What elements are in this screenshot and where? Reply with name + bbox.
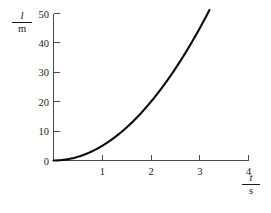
x-axis-label: t s	[242, 172, 260, 197]
y-axis-label-numerator: l	[12, 10, 32, 21]
y-tick-labels: 50 40 30 20 10 0	[39, 9, 50, 167]
x-axis-label-denominator: s	[242, 186, 260, 197]
y-tick-label-20: 20	[39, 97, 50, 108]
y-tick-label-0: 0	[44, 156, 49, 167]
x-axis-ticks	[102, 155, 248, 161]
y-tick-label-30: 30	[39, 67, 50, 78]
data-curve-distance	[54, 10, 210, 161]
x-tick-label-1: 1	[100, 166, 105, 177]
y-axis-ticks	[54, 14, 60, 161]
y-axis-label: l m	[12, 10, 32, 35]
x-tick-label-2: 2	[148, 166, 153, 177]
x-tick-label-3: 3	[197, 166, 202, 177]
distance-time-plot: 50 40 30 20 10 0 1 2 3 4	[0, 0, 271, 213]
chart-figure: 50 40 30 20 10 0 1 2 3 4 l m t s	[0, 0, 271, 213]
x-axis-label-numerator: t	[242, 172, 260, 183]
y-tick-label-10: 10	[39, 126, 50, 137]
y-axis-label-denominator: m	[12, 24, 32, 35]
y-tick-label-40: 40	[39, 38, 50, 49]
y-tick-label-50: 50	[39, 9, 50, 20]
x-tick-labels: 1 2 3 4	[100, 166, 252, 177]
